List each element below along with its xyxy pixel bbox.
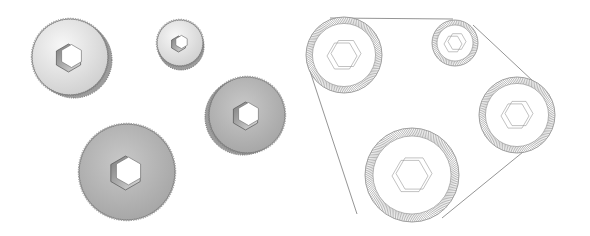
pulley-pulley-b <box>432 20 478 66</box>
thumbscrew-wheel-d <box>78 123 176 221</box>
thumbscrew-wheel-c <box>205 76 286 155</box>
pulley-pulley-c <box>479 77 555 153</box>
belt-drive-panel <box>306 17 555 222</box>
shaded-thumbscrews-panel <box>31 18 286 221</box>
figure <box>0 0 590 236</box>
thumbscrew-wheel-b <box>156 19 204 70</box>
diagram-canvas <box>0 0 590 236</box>
pulley-pulley-a <box>306 17 382 93</box>
thumbscrew-wheel-a <box>31 18 112 98</box>
pulley-pulley-d <box>365 128 459 222</box>
